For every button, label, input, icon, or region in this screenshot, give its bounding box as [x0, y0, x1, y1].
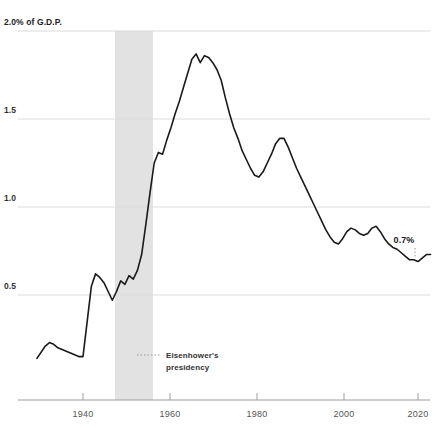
xtick-label-2000: 2000 [334, 409, 355, 419]
eisenhower-annotation-line2: presidency [166, 363, 210, 372]
xtick-label-1960: 1960 [160, 409, 181, 419]
xtick-label-1980: 1980 [247, 409, 268, 419]
y-axis-top-label: 2.0% of G.D.P. [4, 17, 62, 27]
ytick-label-1-5: 1.5 [4, 105, 16, 115]
xtick-label-1940: 1940 [73, 409, 94, 419]
chart-container: 2.0% of G.D.P. 1.5 1.0 0.5 1940 1960 198… [0, 0, 436, 429]
xtick-label-2020: 2020 [408, 409, 429, 419]
ytick-label-1-0: 1.0 [4, 193, 16, 203]
data-series-line [37, 54, 431, 358]
end-value-label: 0.7% [394, 235, 415, 245]
ytick-label-0-5: 0.5 [4, 281, 16, 291]
line-chart: 2.0% of G.D.P. 1.5 1.0 0.5 1940 1960 198… [0, 0, 436, 429]
gridlines [18, 31, 430, 295]
eisenhower-annotation-line1: Eisenhower's [166, 351, 219, 360]
